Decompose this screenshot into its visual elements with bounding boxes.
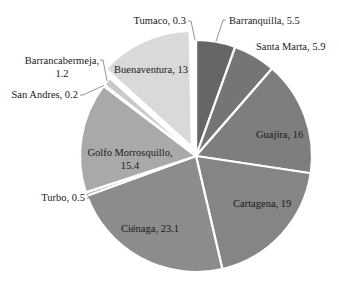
label-buenaventura: Buenaventura, 13 (114, 64, 188, 75)
pie-chart: Barranquilla, 5.5Santa Marta, 5.9Guajira… (0, 0, 339, 288)
label-cienaga: Ciénaga, 23.1 (121, 223, 179, 234)
label-tumaco: Tumaco, 0.3 (134, 15, 186, 26)
leader-line-barrancabermeja (100, 60, 107, 81)
label-barrancabermeja: Barrancabermeja,1.2 (25, 55, 99, 79)
leader-line-barranquilla (216, 20, 226, 42)
label-barranquilla: Barranquilla, 5.5 (229, 15, 300, 26)
pie-slice-tumaco (194, 40, 196, 156)
label-turbo: Turbo, 0.5 (41, 192, 85, 203)
label-guajira: Guajira, 16 (256, 129, 303, 140)
label-santa-marta: Santa Marta, 5.9 (256, 41, 325, 52)
label-cartagena: Cartagena, 19 (233, 198, 291, 209)
label-san-andres: San Andres, 0.2 (12, 89, 79, 100)
